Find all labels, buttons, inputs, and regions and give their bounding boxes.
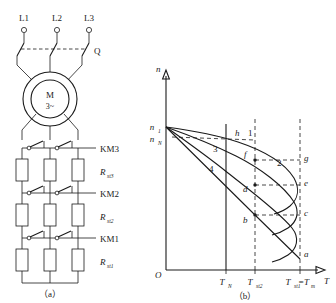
point-label-b: b (243, 215, 248, 225)
terminal-label-l2: L2 (52, 13, 62, 23)
panel-a-circuit: L1 L2 L3 Q (16, 13, 120, 299)
stage-km3: KM3 R st3 (16, 141, 120, 193)
resistor-km3-phase-b (44, 159, 56, 181)
x-tick-tst1-tail: =T (298, 277, 310, 287)
x-tick-tn-sub: N (227, 283, 232, 289)
y-tick-n1: n 1 (150, 122, 161, 134)
figure-root: L1 L2 L3 Q (0, 0, 336, 303)
contact-km2-a[interactable] (27, 186, 44, 195)
panel-b-chart: n T O n 1 n N T N T (150, 64, 330, 301)
resistor-label-rst3-sub: st3 (107, 173, 114, 179)
stage-km2: KM2 R st2 (16, 186, 119, 238)
point-label-f: f (244, 149, 248, 159)
supply-terminal-l2: L2 (52, 13, 62, 33)
contact-km1-b[interactable] (55, 231, 72, 240)
resistor-label-rst1-main: R (99, 257, 106, 267)
y-tick-nn-main: n (150, 134, 155, 144)
resistor-label-rst1-sub: st1 (107, 263, 114, 269)
resistor-label-rst2: R st2 (99, 212, 114, 224)
supply-terminal-l3: L3 (84, 13, 94, 33)
resistor-km1-phase-c (72, 249, 84, 271)
point-label-e: e (304, 178, 308, 188)
reference-line-tst2: T st2 (247, 118, 262, 289)
curve-4-artificial-rst1 (166, 127, 300, 259)
supply-terminal-l1: L1 (19, 13, 29, 33)
contact-km3-b[interactable] (55, 141, 72, 150)
contact-km2-b[interactable] (55, 186, 72, 195)
point-marker-d (253, 183, 256, 186)
curve-label-2: 2 (277, 158, 282, 168)
point-label-d: d (243, 184, 248, 194)
y-axis: n (156, 64, 169, 270)
resistor-label-rst2-main: R (99, 212, 106, 222)
point-label-c: c (304, 208, 308, 218)
resistor-label-rst3-main: R (99, 167, 106, 177)
caption-panel-b: （b） (234, 291, 257, 301)
resistor-km3-phase-a (16, 159, 28, 181)
y-tick-n1-main: n (150, 122, 155, 132)
resistor-km1-phase-a (16, 249, 28, 271)
x-tick-tst1-tail-sub: m (311, 283, 315, 289)
stage-km1: KM1 R st1 (16, 231, 119, 283)
point-marker-f (253, 158, 256, 161)
main-switch-q[interactable]: Q (17, 43, 101, 56)
contactor-label-km3: KM3 (100, 144, 120, 154)
origin-label: O (155, 270, 162, 280)
resistor-km3-phase-c (72, 159, 84, 181)
y-tick-nn-sub: N (157, 140, 162, 146)
resistor-km1-phase-b (44, 249, 56, 271)
point-label-h: h (235, 128, 240, 138)
resistor-km2-phase-a (16, 204, 28, 226)
caption-panel-a: （a） (39, 289, 61, 299)
terminal-label-l3: L3 (84, 13, 94, 23)
curve-2-artificial-rst3 (166, 127, 297, 235)
point-label-g: g (304, 153, 309, 163)
point-marker-b (253, 213, 256, 216)
y-tick-n1-sub: 1 (158, 128, 161, 134)
x-tick-tst1-main: T (285, 277, 291, 287)
x-tick-tst2-main: T (247, 277, 253, 287)
resistor-km2-phase-c (72, 204, 84, 226)
curve-3-artificial-rst2 (166, 127, 297, 262)
contactor-label-km1: KM1 (100, 234, 119, 244)
curve-label-3: 3 (213, 144, 218, 154)
motor-phase-label: 3~ (46, 102, 55, 111)
contact-km1-a[interactable] (27, 231, 44, 240)
contactor-label-km2: KM2 (100, 189, 119, 199)
resistor-label-rst2-sub: st2 (107, 218, 114, 224)
resistor-km2-phase-b (44, 204, 56, 226)
motor-letter: M (46, 90, 54, 100)
y-tick-nn: n N (150, 134, 162, 146)
curve-label-4: 4 (209, 164, 214, 174)
x-tick-tn-main: T (219, 277, 225, 287)
x-tick-tst2-sub: st2 (256, 283, 263, 289)
resistor-label-rst3: R st3 (99, 167, 114, 179)
motor-symbol: M 3~ (23, 72, 77, 126)
reference-line-tst1: T st1 =T m (285, 118, 315, 289)
resistor-label-rst1: R st1 (99, 257, 114, 269)
switch-label-q: Q (94, 46, 101, 56)
contact-km3-a[interactable] (27, 141, 44, 150)
terminal-label-l1: L1 (19, 13, 29, 23)
curve-1-natural (166, 127, 297, 214)
curve-label-1: 1 (248, 128, 253, 138)
x-axis-label: T (324, 276, 330, 286)
y-axis-label: n (156, 64, 161, 74)
point-label-a: a (304, 249, 309, 259)
